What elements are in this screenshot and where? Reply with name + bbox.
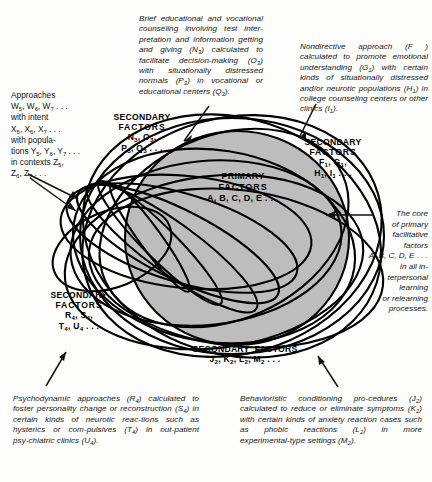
core-note-line-10: processes. — [352, 304, 428, 315]
approaches-line-8: Z6, Z7 . . . — [11, 168, 115, 179]
caption-bottom-right: Behavioristic conditioning pro‑cedures (… — [240, 394, 422, 446]
group-bottom-center-line-2: J2, K2, L2, M2 . . . — [150, 354, 340, 364]
group-label-bottom-center: SECONDARY FACTORS J2, K2, L2, M2 . . . — [150, 344, 340, 364]
core-note-line-2: of primary — [352, 220, 428, 231]
approaches-line-7: in contexts Z5, — [11, 157, 115, 168]
core-note-line-1: The core — [352, 209, 428, 220]
approaches-line-2: W5, W6, W7 . . . — [11, 101, 115, 112]
group-top-right-line-4: H1, I1 . . . — [289, 168, 377, 178]
center-label: PRIMARY FACTORS A, B, C, D, E . . . — [188, 171, 298, 204]
center-label-line-3: A, B, C, D, E . . . — [188, 193, 298, 204]
group-top-right-line-3: F1, G1, — [289, 157, 377, 167]
group-bottom-left-line-4: T4, U4 . . . — [33, 321, 125, 331]
center-label-line-1: PRIMARY — [188, 171, 298, 182]
caption-top-center: Brief educational and vocational counsel… — [139, 14, 263, 97]
core-note-line-8: learning — [352, 283, 428, 294]
caption-top-right: Nondirective approach (F ) calculated to… — [300, 42, 428, 115]
group-bottom-left-line-2: FACTORS — [33, 300, 125, 310]
center-label-line-2: FACTORS — [188, 182, 298, 193]
core-note-line-7: terpersonal — [352, 273, 428, 284]
core-note: The core of primary facilitative factors… — [352, 209, 428, 315]
core-note-line-4: factors — [352, 241, 428, 252]
group-label-bottom-left: SECONDARY FACTORS R4, S4, T4, U4 . . . — [33, 290, 125, 331]
group-top-right-line-1: SECONDARY — [289, 137, 377, 147]
caption-bottom-left: Psychodynamic approaches (R4) calculated… — [13, 394, 199, 446]
group-label-top-right: SECONDARY FACTORS F1, G1, H1, I1 . . . — [289, 137, 377, 178]
core-note-line-5: A, B, C, D, E . . . — [352, 251, 428, 262]
group-top-left-line-1: SECONDARY — [96, 112, 188, 122]
group-top-left-line-4: P3, Q3 . . . — [96, 143, 188, 153]
group-top-right-line-2: FACTORS — [289, 147, 377, 157]
figure-page: Brief educational and vocational counsel… — [0, 0, 432, 482]
group-top-left-line-3: N3, O3, — [96, 132, 188, 142]
group-bottom-center-line-1: SECONDARY FACTORS — [150, 344, 340, 354]
group-bottom-left-line-1: SECONDARY — [33, 290, 125, 300]
group-bottom-left-line-3: R4, S4, — [33, 310, 125, 320]
core-note-line-9: or relearning — [352, 294, 428, 305]
core-note-line-3: facilitative — [352, 230, 428, 241]
group-label-top-left: SECONDARY FACTORS N3, O3, P3, Q3 . . . — [96, 112, 188, 153]
approaches-line-1: Approaches — [11, 90, 115, 101]
group-top-left-line-2: FACTORS — [96, 122, 188, 132]
core-note-line-6: in all in- — [352, 262, 428, 273]
